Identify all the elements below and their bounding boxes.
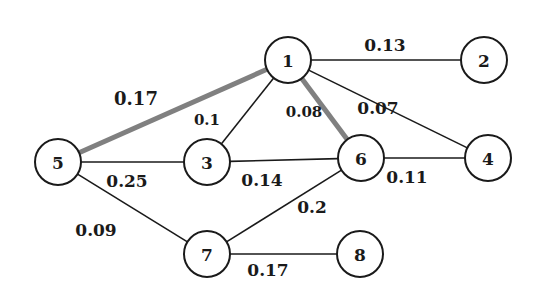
weighted-graph-diagram: 0.130.170.10.080.070.250.140.110.20.090.…: [0, 0, 541, 292]
node-label: 7: [201, 245, 213, 265]
node-label: 1: [282, 51, 294, 71]
node-label: 8: [354, 245, 366, 265]
node-1: 1: [265, 37, 311, 83]
edge-weight-label-1-5: 0.17: [114, 88, 158, 109]
node-2: 2: [461, 37, 507, 83]
edge-1-5: [79, 69, 267, 152]
node-label: 5: [52, 153, 64, 173]
edge-weight-label-7-8: 0.17: [247, 260, 288, 280]
nodes-layer: 12345678: [35, 37, 511, 277]
node-5: 5: [35, 139, 81, 185]
node-label: 3: [201, 153, 213, 173]
node-label: 6: [355, 149, 367, 169]
edge-weight-label-6-7: 0.2: [297, 197, 327, 217]
edge-weight-label-3-6: 0.14: [241, 170, 283, 190]
edge-3-6: [230, 159, 338, 162]
edge-weight-label-5-3: 0.25: [106, 171, 147, 191]
node-7: 7: [184, 231, 230, 277]
node-3: 3: [184, 139, 230, 185]
edge-weight-label-1-3: 0.1: [194, 111, 220, 129]
edge-weight-label-1-6: 0.08: [286, 103, 323, 121]
edge-weight-label-5-7: 0.09: [75, 220, 116, 240]
edge-weight-label-6-4: 0.11: [386, 167, 427, 187]
node-8: 8: [337, 231, 383, 277]
node-label: 2: [478, 51, 490, 71]
edge-weight-label-1-4: 0.07: [357, 98, 398, 118]
edge-weight-label-1-2: 0.13: [364, 35, 405, 55]
node-4: 4: [465, 135, 511, 181]
node-label: 4: [482, 149, 494, 169]
node-6: 6: [338, 135, 384, 181]
